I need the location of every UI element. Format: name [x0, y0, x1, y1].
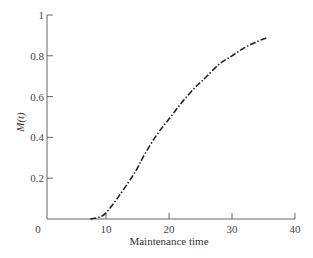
- y-tick-label: 0.6: [30, 91, 44, 103]
- y-tick-label: 0.4: [30, 131, 44, 143]
- data-line-m-t: [90, 37, 268, 219]
- tick-labels: 0102030400.20.40.60.81: [30, 9, 301, 235]
- x-tick-label: 40: [290, 223, 302, 235]
- chart: 0102030400.20.40.60.81 Maintenance time …: [0, 0, 313, 258]
- y-tick-label: 1: [39, 9, 45, 21]
- x-tick-label: 20: [164, 223, 176, 235]
- x-tick-label: 10: [101, 223, 113, 235]
- x-axis-label: Maintenance time: [129, 235, 208, 247]
- axes: [47, 15, 295, 219]
- x-tick-label: 0: [35, 223, 41, 235]
- y-axis-label: M(t): [14, 112, 27, 133]
- y-tick-label: 0.2: [30, 172, 44, 184]
- tick-marks: [47, 15, 295, 219]
- y-tick-label: 0.8: [30, 50, 44, 62]
- x-tick-label: 30: [227, 223, 239, 235]
